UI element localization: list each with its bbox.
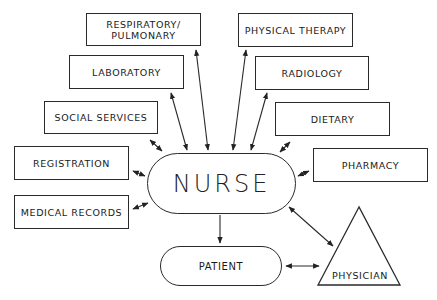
node-physical-therapy: PHYSICAL THERAPY (238, 13, 353, 47)
node-patient: PATIENT (160, 246, 282, 286)
node-radiology: RADIOLOGY (255, 56, 369, 90)
node-patient-label: PATIENT (199, 261, 244, 272)
node-dietary-label: DIETARY (311, 114, 355, 125)
arrow-physician (289, 207, 333, 246)
node-social-services: SOCIAL SERVICES (44, 101, 158, 134)
node-radiology-label: RADIOLOGY (282, 68, 343, 79)
arrow-registration (133, 171, 145, 176)
node-respiratory-pulmonary: RESPIRATORY/ PULMONARY (86, 13, 201, 46)
node-laboratory-label: LABORATORY (92, 67, 161, 78)
node-respiratory-line1: RESPIRATORY/ (106, 19, 181, 30)
node-physical-therapy-label: PHYSICAL THERAPY (245, 25, 347, 36)
arrow-social-services (150, 140, 162, 151)
arrow-dietary (280, 142, 290, 152)
arrow-laboratory (171, 93, 187, 150)
arrow-medical-records (133, 203, 148, 209)
arrow-respiratory (196, 50, 208, 150)
node-respiratory-line2: PULMONARY (111, 30, 175, 41)
node-laboratory: LABORATORY (69, 55, 184, 89)
node-physician-label: PHYSICIAN (322, 270, 398, 281)
node-dietary: DIETARY (275, 102, 390, 136)
node-registration: REGISTRATION (14, 146, 129, 180)
arrow-radiology (251, 93, 267, 150)
arrow-pharmacy (298, 171, 309, 176)
node-pharmacy: PHARMACY (313, 148, 428, 182)
node-medical-records: MEDICAL RECORDS (14, 195, 129, 229)
node-registration-label: REGISTRATION (33, 158, 110, 169)
node-social-services-label: SOCIAL SERVICES (55, 112, 148, 123)
arrow-physical-therapy (233, 50, 246, 150)
node-nurse-label: NURSE (173, 170, 271, 198)
node-pharmacy-label: PHARMACY (342, 160, 400, 171)
node-medical-records-label: MEDICAL RECORDS (21, 207, 122, 218)
node-nurse: NURSE (147, 153, 296, 214)
